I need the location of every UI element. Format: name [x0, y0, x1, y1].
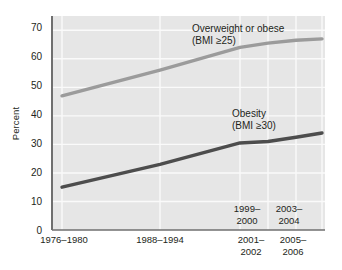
- obesity-trend-chart: Percent 70 60 50 40 30 20 10 0 Overweigh…: [0, 0, 342, 270]
- x-tick-2003-2004-line1: 2003–: [276, 203, 302, 214]
- x-tick-1976-1980-line1: 1976–1980: [40, 234, 88, 245]
- x-tick-2005-2006-line2: 2006: [282, 246, 303, 257]
- series-label-overweight: Overweight or obese (BMI ≥25): [192, 23, 284, 47]
- x-tick-2001-2002-line1: 2001–: [238, 234, 264, 245]
- series-label-obesity-sub: (BMI ≥30): [232, 120, 276, 131]
- plot-area: [0, 0, 342, 270]
- x-tick-2003-2004: 2003– 2004: [270, 203, 308, 226]
- x-tick-2001-2002: 2001– 2002: [232, 234, 270, 257]
- series-label-obesity: Obesity (BMI ≥30): [232, 108, 276, 132]
- x-tick-2003-2004-line2: 2004: [278, 215, 299, 226]
- x-tick-1988-1994-line1: 1988–1994: [136, 234, 184, 245]
- x-tick-2005-2006-line1: 2005–: [280, 234, 306, 245]
- x-tick-2005-2006: 2005– 2006: [274, 234, 312, 257]
- x-tick-1999-2000-line1: 1999–: [234, 203, 260, 214]
- x-tick-1999-2000: 1999– 2000: [228, 203, 266, 226]
- x-tick-2001-2002-line2: 2002: [240, 246, 261, 257]
- x-tick-1988-1994: 1988–1994: [123, 234, 197, 246]
- plot-background: [52, 16, 325, 230]
- series-label-obesity-title: Obesity: [232, 108, 266, 119]
- series-label-overweight-title: Overweight or obese: [192, 23, 284, 34]
- x-tick-1976-1980: 1976–1980: [27, 234, 101, 246]
- series-label-overweight-sub: (BMI ≥25): [192, 35, 236, 46]
- x-tick-1999-2000-line2: 2000: [236, 215, 257, 226]
